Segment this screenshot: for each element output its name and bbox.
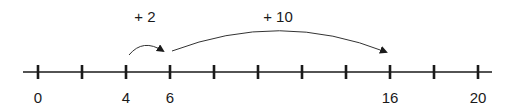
jump-arc-plus-2: [129, 45, 163, 55]
tick-label-6: 6: [166, 90, 174, 105]
number-line-diagram: 0461620 + 2 + 10: [0, 0, 510, 109]
jump-label-plus-10: + 10: [263, 9, 293, 24]
tick-label-0: 0: [34, 90, 42, 105]
jump-label-plus-2: + 2: [134, 9, 155, 24]
tick-label-20: 20: [470, 90, 487, 105]
tick-label-16: 16: [382, 90, 399, 105]
number-line-canvas: [0, 0, 510, 109]
tick-label-4: 4: [122, 90, 130, 105]
jump-arc-plus-10: [172, 31, 386, 52]
